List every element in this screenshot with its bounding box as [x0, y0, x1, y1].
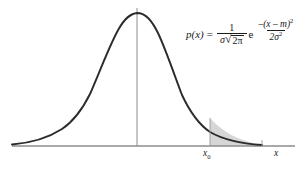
exponent-numerator-text: –(x – m)	[258, 19, 290, 29]
exponent-denominator: 2σ2	[267, 30, 286, 43]
x0-tick-label: x0	[203, 148, 210, 160]
x-axis-label: x	[274, 148, 278, 158]
formula-equals: =	[207, 29, 213, 40]
square-root: √2π	[225, 34, 244, 47]
exponent-numerator-power: 2	[290, 17, 293, 24]
exponent-denominator-text: 2σ	[270, 32, 279, 42]
coefficient-fraction: 1 σ√2π	[217, 23, 247, 47]
exponential-base: e	[249, 29, 254, 40]
exponent-numerator: –(x – m)2	[255, 18, 296, 30]
exponent-fraction: –(x – m)2 2σ2	[255, 18, 296, 43]
x0-tick-label-subscript: 0	[207, 153, 210, 160]
normal-distribution-figure: p(x) = 1 σ√2π e –(x – m)2 2σ2 x0 x	[0, 0, 303, 170]
fraction-denominator: σ√2π	[217, 33, 247, 47]
radical-sign-icon: √	[225, 34, 232, 45]
radicand: 2π	[231, 35, 243, 47]
formula-lhs: p(x)	[186, 29, 204, 40]
pdf-formula: p(x) = 1 σ√2π e –(x – m)2 2σ2	[186, 22, 296, 47]
exponent-denominator-power: 2	[279, 30, 282, 37]
